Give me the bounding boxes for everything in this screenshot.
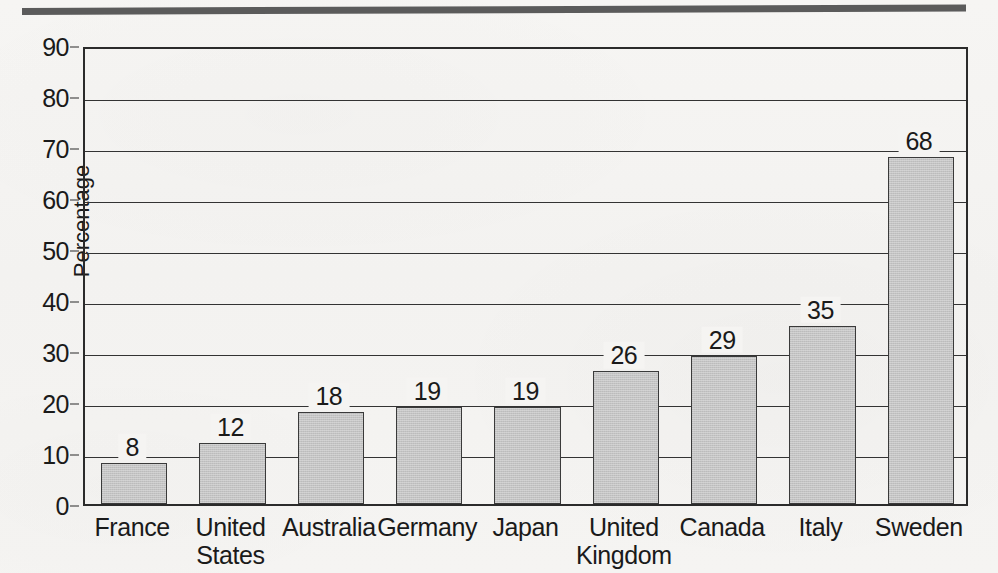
y-axis-tick-mark (70, 506, 79, 507)
y-axis-tick-label: 90 (42, 33, 69, 62)
x-axis-category-label: Japan (492, 513, 558, 541)
bar-value-label: 26 (603, 342, 644, 368)
y-axis-tick-label: 10 (42, 441, 69, 470)
bar[interactable] (593, 371, 659, 504)
x-axis-category-label: Germany (377, 513, 477, 541)
bar-value-label: 29 (702, 327, 743, 353)
bar[interactable] (199, 443, 265, 504)
y-axis-tick-mark (70, 98, 79, 99)
y-axis-tick-mark (70, 353, 79, 354)
y-axis-tick-label: 60 (42, 186, 69, 215)
gridline (85, 100, 966, 101)
x-axis-category-label: Italy (799, 513, 843, 541)
y-axis-tick-mark (70, 302, 79, 303)
y-axis-tick-label: 40 (42, 288, 69, 317)
y-axis-tick-mark (70, 149, 79, 150)
bar-value-label: 18 (308, 383, 349, 409)
y-axis-tick-labels: 0102030405060708090 (0, 47, 79, 506)
x-axis-category-label: Sweden (875, 513, 963, 541)
bar[interactable] (101, 463, 167, 504)
bar-value-label: 19 (505, 378, 546, 404)
y-axis-tick-label: 30 (42, 339, 69, 368)
y-axis-tick-label: 50 (42, 237, 69, 266)
x-axis-category-label: United States (196, 513, 266, 569)
x-axis-category-label: Canada (680, 513, 765, 541)
y-axis-tick-mark (70, 404, 79, 405)
top-horizontal-rule (22, 4, 966, 15)
y-axis-tick-mark (70, 455, 79, 456)
bar-value-label: 19 (407, 378, 448, 404)
y-axis-tick-mark (70, 251, 79, 252)
y-axis-tick-label: 80 (42, 84, 69, 113)
bar[interactable] (691, 356, 757, 504)
bar-value-label: 12 (210, 414, 251, 440)
bar-value-label: 8 (118, 434, 145, 460)
x-axis-category-label: United Kingdom (576, 513, 672, 569)
bar-value-label: 68 (898, 128, 939, 154)
chart-page: Percentage 0102030405060708090 8France12… (0, 0, 998, 573)
x-axis-category-label: France (94, 513, 169, 541)
y-axis-tick-label: 20 (42, 390, 69, 419)
bar[interactable] (888, 157, 954, 504)
x-axis-category-label: Australia (282, 513, 376, 541)
bar[interactable] (494, 407, 560, 504)
bar[interactable] (789, 326, 855, 505)
gridline (85, 202, 966, 203)
bar[interactable] (396, 407, 462, 504)
y-axis-tick-label: 70 (42, 135, 69, 164)
bar[interactable] (298, 412, 364, 504)
y-axis-tick-label: 0 (56, 492, 69, 521)
bar-value-label: 35 (800, 296, 841, 322)
y-axis-tick-mark (70, 47, 79, 48)
y-axis-tick-mark (70, 200, 79, 201)
gridline (85, 253, 966, 254)
gridline (85, 151, 966, 152)
